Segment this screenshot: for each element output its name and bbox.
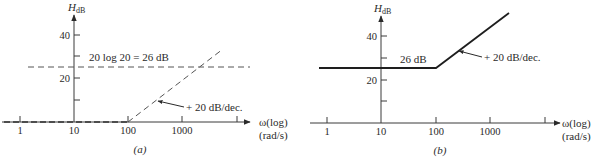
x-tick-label: 1 <box>324 126 329 137</box>
slope-label: + 20 dB/dec. <box>186 101 243 113</box>
x-axis-unit: (rad/s) <box>259 129 288 142</box>
y-axis-label: HdB <box>373 2 391 16</box>
x-tick-label: 10 <box>376 126 387 137</box>
constant-label: 20 log 20 = 26 dB <box>89 51 169 63</box>
x-tick-label: 100 <box>120 125 136 136</box>
x-tick-label: 10 <box>69 125 80 136</box>
slope-annotation-arrow <box>158 101 184 107</box>
y-tick-label: 40 <box>60 30 71 41</box>
x-tick-label: 1000 <box>172 125 193 136</box>
x-axis-label: ω(log) <box>259 116 288 129</box>
constant-label: 26 dB <box>400 53 427 65</box>
slope-label: + 20 dB/dec. <box>484 51 541 63</box>
y-tick-label: 20 <box>367 75 378 86</box>
x-tick-label: 100 <box>428 126 444 137</box>
y-axis-label: HdB <box>67 1 85 15</box>
panel-b: 40 20 1 10 100 1000 HdB ω(log) (rad/s) 2… <box>310 2 591 157</box>
x-axis-label: ω(log) <box>562 117 591 130</box>
x-tick-label: 1000 <box>480 126 501 137</box>
x-tick-label: 1 <box>17 125 22 136</box>
bode-plot-figure: 40 20 1 10 100 1000 HdB ω(log) (rad/s) 2… <box>0 0 595 161</box>
caption-a: (a) <box>134 143 147 156</box>
y-tick-label: 20 <box>60 73 71 84</box>
panel-a: 40 20 1 10 100 1000 HdB ω(log) (rad/s) 2… <box>2 1 288 156</box>
x-axis-unit: (rad/s) <box>562 130 591 143</box>
caption-b: (b) <box>434 144 447 157</box>
slope-annotation-arrow <box>459 51 482 57</box>
y-tick-label: 40 <box>367 31 378 42</box>
